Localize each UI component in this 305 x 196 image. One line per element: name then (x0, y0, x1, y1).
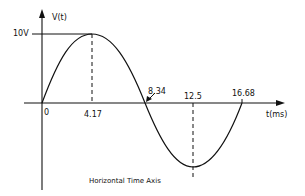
tick-label-4-17: 4.17 (84, 110, 102, 119)
tick-label-0: 0 (44, 108, 49, 117)
peak-label: 10V (13, 29, 29, 38)
tick-label-8-34: 8.34 (148, 87, 166, 96)
caption: Horizontal Time Axis (89, 177, 161, 185)
sine-curve (42, 34, 242, 167)
y-axis-arrow-icon (39, 9, 45, 18)
x-axis-label: t(ms) (266, 110, 287, 119)
tick-label-16-68: 16.68 (232, 89, 255, 98)
y-axis-label: V(t) (52, 13, 67, 22)
tick-label-12-5: 12.5 (184, 92, 202, 101)
x-axis-arrow-icon (276, 100, 285, 106)
sine-wave-diagram: V(t) 10V 0 4.17 8.34 12.5 16.68 t(ms) Ho… (0, 0, 305, 196)
